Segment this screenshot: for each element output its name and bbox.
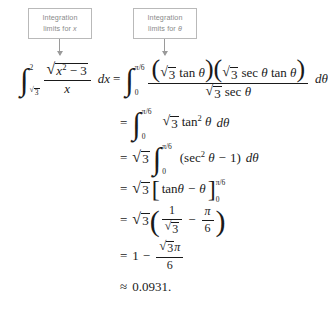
line7-right-side: ≈ 0.0931. xyxy=(120,279,171,295)
line5-radical: √3 xyxy=(132,212,149,228)
paren-open: ( xyxy=(150,207,160,234)
line7-approx: ≈ xyxy=(120,279,127,295)
minus-sign: − xyxy=(188,181,195,197)
line5-right-side: = √3 ( 1 √3 − π 6 ) xyxy=(120,204,226,236)
sqrt-icon: √ xyxy=(29,86,33,94)
callout-theta-line2: limits for θ xyxy=(134,24,196,35)
sqrt-icon: √ xyxy=(47,61,56,77)
line4-bracket-bounds: π/6 0 xyxy=(216,178,226,200)
callout-theta-line2-text: limits for xyxy=(148,24,178,33)
sqrt-icon: √ xyxy=(162,114,170,128)
line4-antiderivative: tan θ−θ xyxy=(160,178,208,201)
line1-integrand-fraction: √ x2 − 3 x xyxy=(44,62,91,97)
equation-line-3: = √3 ∫ π/6 0 (sec2 θ−1) dθ xyxy=(0,143,328,174)
sqrt-icon: √ xyxy=(132,180,141,196)
line3-radical: √3 xyxy=(132,150,149,166)
paren-open-2: ( xyxy=(214,54,223,83)
line1-integral-limits: 2 √3 xyxy=(29,64,39,95)
line1-theta-lower-limit: 0 xyxy=(135,88,145,97)
frac1-den-radical: √3 xyxy=(165,221,180,236)
callout-x-line2: limits for x xyxy=(29,24,91,35)
line7-value: 0.0931. xyxy=(132,279,171,295)
line1-lower-limit: √3 xyxy=(29,86,39,97)
minus-sign: − xyxy=(70,63,77,78)
callout-theta-variable: θ xyxy=(178,24,182,33)
line1-integral-theta: ∫ π/6 0 xyxy=(125,64,144,95)
line5-radicand: 3 xyxy=(141,213,150,228)
den-radicand: 3 xyxy=(213,86,222,101)
line3-right-side: = √3 ∫ π/6 0 (sec2 θ−1) dθ xyxy=(120,143,259,174)
equation-line-4: = √3 [ tan θ−θ ] π/6 0 xyxy=(0,178,328,201)
line1-equals: = xyxy=(113,71,120,87)
line2-tan-squared-theta: tan2 θ xyxy=(182,114,212,129)
line1-theta-limits: π/6 0 xyxy=(135,64,145,95)
sqrt-icon: √ xyxy=(160,65,168,79)
line2-differential-dtheta: dθ xyxy=(216,115,229,131)
sqrt-icon: √ xyxy=(222,65,230,79)
line3-lower-limit: 0 xyxy=(162,167,172,176)
line3-radicand: 3 xyxy=(141,151,150,166)
line3-limits: π/6 0 xyxy=(162,143,172,174)
sec-theta-den: sec θ xyxy=(225,84,251,99)
line2-right-side: = ∫ π/6 0 √3tan2 θ dθ xyxy=(120,108,229,139)
integral-sign-icon: ∫ xyxy=(132,113,141,135)
line1-left-side: ∫ 2 √3 √ x2 − 3 x dx xyxy=(0,62,113,97)
line6-radical: √3 xyxy=(159,240,174,255)
line4-lower-bound: 0 xyxy=(216,195,226,204)
tan-theta-1: tan θ xyxy=(179,65,205,80)
line2-exponent: 2 xyxy=(198,113,202,123)
paren-close: ) xyxy=(236,150,240,165)
line2-radicand: 3 xyxy=(170,116,179,131)
callout-theta-line1: Integration xyxy=(134,13,196,24)
line4-right-side: = √3 [ tan θ−θ ] π/6 0 xyxy=(120,178,225,201)
line1-numerator: √ x2 − 3 xyxy=(44,62,91,79)
line2-upper-limit: π/6 xyxy=(142,107,152,116)
minus-sign: − xyxy=(219,150,226,165)
callout-integration-limits-x: Integration limits for x xyxy=(28,8,92,39)
line1-integral-x: ∫ 2 √3 xyxy=(20,64,40,95)
frac1-den-radicand: 3 xyxy=(171,222,179,236)
line5-frac2-numerator: π xyxy=(202,205,214,219)
line2-lower-limit: 0 xyxy=(142,132,152,141)
bracket-open: [ xyxy=(152,178,160,201)
paren-close: ) xyxy=(216,207,226,234)
line5-equals: = xyxy=(120,212,127,228)
line4-equals: = xyxy=(120,181,127,197)
line4-radicand: 3 xyxy=(141,182,150,197)
num-radical-1: √3 xyxy=(160,66,176,82)
sqrt-icon: √ xyxy=(159,239,166,252)
line5-frac1-numerator: 1 xyxy=(166,204,178,218)
line6-minus: − xyxy=(143,248,150,264)
num-radical-2: √3 xyxy=(222,66,238,82)
line3-upper-limit: π/6 xyxy=(162,142,172,151)
callout-x-line2-text: limits for xyxy=(43,24,73,33)
line6-equals: = xyxy=(120,248,127,264)
equation-line-1: ∫ 2 √3 √ x2 − 3 x dx = xyxy=(0,57,328,102)
line6-one: 1 xyxy=(132,248,139,264)
line1-radicand: x2 − 3 xyxy=(55,63,87,78)
callout-x-line1: Integration xyxy=(29,13,91,24)
sqrt-icon: √ xyxy=(165,220,172,232)
equation-line-5: = √3 ( 1 √3 − π 6 ) xyxy=(0,204,328,236)
line3-differential-dtheta: dθ xyxy=(246,150,259,166)
line6-right-side: = 1 − √3π 6 xyxy=(120,240,185,272)
arrow-to-x-limits xyxy=(55,39,64,55)
line1-differential-dx: dx xyxy=(98,71,110,87)
arrow-theta-head xyxy=(162,51,168,56)
line1-rhs-fraction: (√3tan θ)(√3sec θ tan θ) √3sec θ xyxy=(148,57,308,102)
line2-equals: = xyxy=(120,115,127,131)
line5-minus: − xyxy=(188,212,195,228)
line1-denominator: x xyxy=(61,82,73,97)
line6-denominator: 6 xyxy=(164,259,176,273)
line6-numerator: √3π xyxy=(156,240,183,255)
den-radical: √3 xyxy=(206,85,222,101)
lower-limit-radical: √3 xyxy=(29,87,39,97)
line5-frac2-denominator: 6 xyxy=(202,222,214,236)
line6-fraction: √3π 6 xyxy=(156,240,183,272)
integral-sign-icon: ∫ xyxy=(20,69,29,91)
line2-limits: π/6 0 xyxy=(142,108,152,139)
arrow-to-theta-limits xyxy=(160,39,169,55)
line4-evaluation-bracket: [ tan θ−θ ] π/6 0 xyxy=(152,178,226,201)
line3-integrand: (sec2 θ−1) xyxy=(180,150,241,166)
line4-upper-bound: π/6 xyxy=(216,178,226,187)
